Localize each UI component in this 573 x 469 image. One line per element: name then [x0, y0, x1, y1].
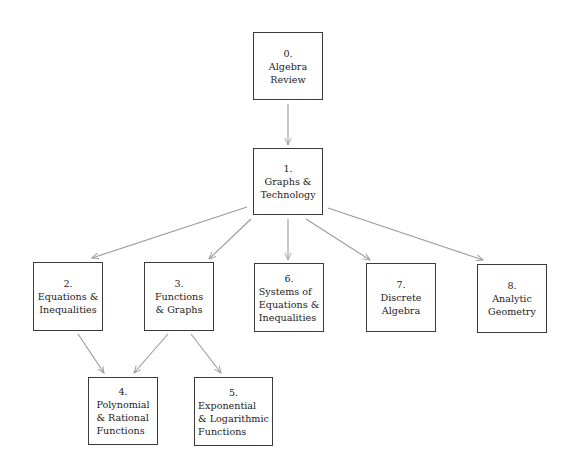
node-label-line: Functions — [198, 425, 246, 438]
node-label-line: Equations & — [259, 298, 319, 311]
node-label-line: & Graphs — [156, 303, 203, 316]
node-label-line: Graphs & — [265, 175, 312, 188]
node-label-line: Inequalities — [259, 311, 316, 324]
node-number: 4. — [118, 385, 127, 398]
node-systems-of-equations: 6. Systems of Equations & Inequalities — [254, 263, 324, 332]
node-number: 1. — [283, 162, 292, 175]
edge-n1-to-n7 — [306, 219, 370, 260]
edge-n1-to-n2 — [92, 207, 247, 258]
node-label-block: Polynomial & Rational Functions — [96, 398, 149, 437]
node-label-line: Geometry — [488, 305, 536, 318]
node-label-block: Exponential & Logarithmic Functions — [198, 399, 269, 438]
node-label-line: Analytic — [492, 292, 532, 305]
edge-n2-to-n4 — [78, 334, 104, 373]
node-graphs-technology: 1. Graphs & Technology — [253, 148, 323, 215]
node-label-line: Review — [270, 73, 305, 86]
node-number: 0. — [283, 47, 292, 60]
node-label-line: & Rational — [96, 411, 148, 424]
node-number: 2. — [63, 277, 72, 290]
node-polynomial-rational: 4. Polynomial & Rational Functions — [88, 377, 158, 445]
node-label-line: Inequalities — [39, 303, 96, 316]
node-label-line: Equations & — [38, 290, 98, 303]
node-label-line: Discrete — [381, 291, 422, 304]
node-number: 7. — [396, 278, 405, 291]
node-number: 3. — [174, 277, 183, 290]
edge-n3-to-n5 — [191, 334, 221, 373]
node-number: 8. — [507, 279, 516, 292]
node-label-line: Functions — [155, 290, 203, 303]
node-label-line: Systems of — [259, 285, 312, 298]
node-exponential-logarithmic: 5. Exponential & Logarithmic Functions — [194, 377, 273, 446]
edge-n3-to-n4 — [134, 334, 168, 373]
node-discrete-algebra: 7. Discrete Algebra — [366, 263, 436, 332]
node-label-line: Technology — [260, 188, 315, 201]
node-label-line: & Logarithmic — [198, 412, 269, 425]
node-equations-inequalities: 2. Equations & Inequalities — [33, 262, 103, 331]
node-algebra-review: 0. Algebra Review — [253, 32, 323, 100]
node-label-line: Algebra — [382, 304, 420, 317]
node-label-block: Systems of Equations & Inequalities — [259, 285, 319, 324]
node-analytic-geometry: 8. Analytic Geometry — [477, 264, 547, 333]
edge-n1-to-n8 — [328, 208, 483, 260]
edge-n1-to-n3 — [209, 219, 251, 259]
node-number: 6. — [284, 272, 293, 285]
node-label-line: Algebra — [269, 60, 307, 73]
prerequisite-flowchart: 0. Algebra Review 1. Graphs & Technology… — [0, 0, 573, 469]
node-functions-graphs: 3. Functions & Graphs — [144, 262, 214, 331]
node-label-line: Exponential — [198, 399, 256, 412]
node-number: 5. — [229, 386, 238, 399]
node-label-line: Functions — [96, 424, 144, 437]
node-label-line: Polynomial — [96, 398, 149, 411]
